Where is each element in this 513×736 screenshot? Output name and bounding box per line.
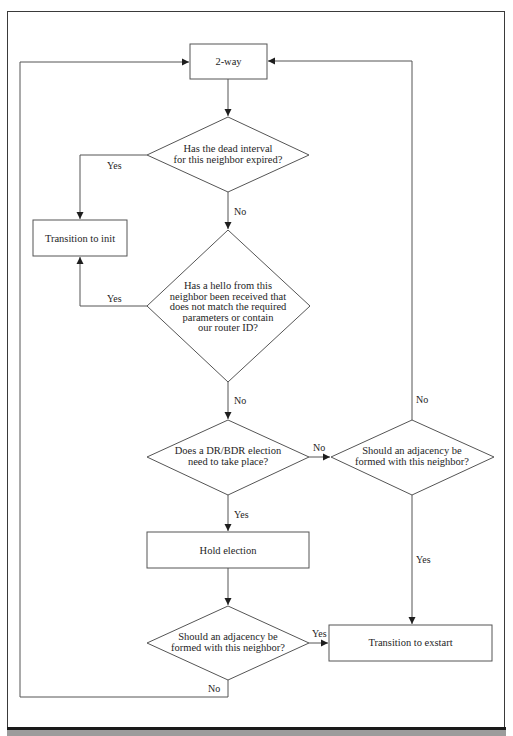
node-adjacency-right: Should an adjacency be formed with this … (331, 420, 494, 495)
label-adj-bottom-no: No (208, 683, 220, 694)
node-dr-line-2: need to take place? (188, 456, 268, 467)
label-dead-yes: Yes (107, 160, 122, 171)
node-dr-bdr-election: Does a DR/BDR election need to take plac… (147, 420, 309, 495)
edge-labels: Yes No Yes No No Yes No Yes Yes No (107, 160, 431, 694)
node-adj-right-line-2: formed with this neighbor? (355, 456, 469, 467)
node-dead-interval-line-1: Has the dead interval (184, 143, 273, 154)
node-hello-line-4: parameters or contain (183, 312, 275, 323)
node-hello-line-2: neighbor been received that (170, 291, 286, 302)
node-hello-mismatch: Has a hello from this neighbor been rece… (147, 230, 310, 382)
node-dead-interval: Has the dead interval for this neighbor … (147, 117, 309, 192)
node-adj-right-line-1: Should an adjacency be (362, 445, 462, 456)
node-two-way-label: 2-way (215, 56, 242, 67)
node-adjacency-bottom: Should an adjacency be formed with this … (147, 606, 309, 680)
node-hello-line-1: Has a hello from this (184, 280, 272, 291)
node-dead-interval-line-2: for this neighbor expired? (174, 154, 283, 165)
label-hello-no: No (234, 395, 246, 406)
node-transition-exstart-label: Transition to exstart (368, 637, 452, 648)
node-adj-bottom-line-1: Should an adjacency be (178, 631, 278, 642)
flowchart: 2-way Has the dead interval for this nei… (0, 0, 513, 736)
label-adj-right-no: No (416, 394, 428, 405)
label-dead-no: No (234, 206, 246, 217)
node-transition-exstart: Transition to exstart (329, 625, 492, 661)
node-hold-election: Hold election (147, 532, 309, 568)
nodes: 2-way Has the dead interval for this nei… (33, 44, 494, 680)
label-adj-right-yes: Yes (416, 554, 431, 565)
node-dr-line-1: Does a DR/BDR election (175, 445, 282, 456)
node-two-way: 2-way (190, 44, 267, 79)
node-transition-init-label: Transition to init (45, 233, 115, 244)
label-dr-yes: Yes (234, 509, 249, 520)
edge-adj-right-no-to-twoway (268, 61, 412, 420)
label-dr-no: No (313, 442, 325, 453)
label-adj-bottom-yes: Yes (312, 628, 327, 639)
node-hello-line-5: our router ID? (198, 322, 258, 333)
node-hold-election-label: Hold election (200, 545, 258, 556)
node-adj-bottom-line-2: formed with this neighbor? (171, 642, 285, 653)
node-transition-init: Transition to init (33, 220, 127, 256)
node-hello-line-3: does not match the required (170, 301, 287, 312)
label-hello-yes: Yes (107, 293, 122, 304)
